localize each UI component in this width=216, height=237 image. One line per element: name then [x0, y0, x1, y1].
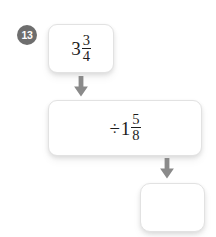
division-operator: ÷ [109, 119, 119, 138]
arrow-down-icon [159, 158, 175, 179]
start-denominator: 4 [82, 48, 91, 64]
start-fraction: 3 4 [82, 33, 91, 64]
worksheet-problem-canvas: 13 3 3 4 ÷ 1 5 8 [0, 0, 216, 237]
start-whole-number: 3 [71, 39, 81, 58]
problem-number-badge: 13 [17, 25, 37, 45]
operation-fraction: 5 8 [131, 112, 140, 143]
operation-whole-number: 1 [121, 119, 131, 138]
operation-numerator: 5 [131, 112, 140, 127]
answer-input-box[interactable] [140, 183, 205, 232]
operation-denominator: 8 [131, 127, 140, 143]
mixed-number-start: 3 3 4 [71, 33, 91, 64]
start-numerator: 3 [82, 33, 91, 48]
arrow-down-icon [73, 76, 89, 97]
operation-expression: ÷ 1 5 8 [109, 113, 140, 144]
start-value-box: 3 3 4 [48, 24, 114, 73]
operation-box: ÷ 1 5 8 [48, 100, 202, 156]
